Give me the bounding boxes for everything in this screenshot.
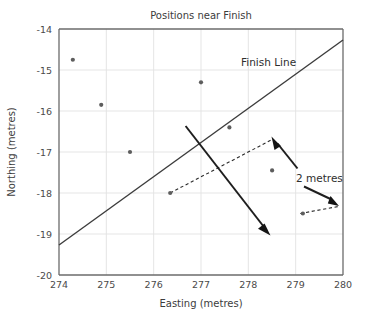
x-tick-label: 277 bbox=[192, 279, 210, 290]
y-tick-label: -19 bbox=[36, 229, 52, 240]
chart-figure: -14 -15 -16 -17 -18 -19 -20 274 275 276 … bbox=[0, 0, 367, 334]
x-tick-labels: 274 275 276 277 278 279 280 bbox=[50, 279, 352, 290]
x-tick-label: 280 bbox=[334, 279, 352, 290]
dashed-displacement-line-2 bbox=[300, 207, 338, 214]
two-metres-leader-arrow-head-upper bbox=[272, 137, 281, 151]
data-point bbox=[301, 211, 305, 215]
x-tick-label: 279 bbox=[287, 279, 305, 290]
x-tick-label: 276 bbox=[145, 279, 163, 290]
course-direction-arrow-shaft bbox=[186, 126, 264, 227]
y-tick-labels: -14 -15 -16 -17 -18 -19 -20 bbox=[36, 24, 52, 281]
chart-title: Positions near Finish bbox=[150, 10, 252, 21]
data-point bbox=[168, 191, 172, 195]
y-tick-label: -16 bbox=[36, 106, 52, 117]
two-metres-label: 2 metres bbox=[296, 172, 343, 184]
data-points bbox=[71, 58, 305, 216]
y-tick-label: -17 bbox=[36, 147, 52, 158]
two-metres-leader-arrow-shaft-upper bbox=[278, 144, 298, 169]
data-point bbox=[199, 80, 203, 84]
data-point bbox=[227, 125, 231, 129]
positions-near-finish-scatter-plot: -14 -15 -16 -17 -18 -19 -20 274 275 276 … bbox=[0, 0, 367, 334]
y-tick-label: -14 bbox=[36, 24, 52, 35]
finish-line-label: Finish Line bbox=[241, 56, 296, 68]
data-point bbox=[99, 103, 103, 107]
grid-lines bbox=[59, 29, 343, 275]
x-tick-label: 278 bbox=[239, 279, 257, 290]
data-point bbox=[71, 58, 75, 62]
x-tick-label: 274 bbox=[50, 279, 68, 290]
y-tick-label: -15 bbox=[36, 65, 52, 76]
x-tick-label: 275 bbox=[97, 279, 115, 290]
data-point bbox=[128, 150, 132, 154]
data-point bbox=[270, 168, 274, 172]
y-tick-label: -18 bbox=[36, 188, 52, 199]
x-axis-title: Easting (metres) bbox=[159, 298, 242, 309]
dashed-displacement-line-1 bbox=[170, 139, 272, 193]
y-axis-title: Northing (metres) bbox=[6, 107, 17, 197]
